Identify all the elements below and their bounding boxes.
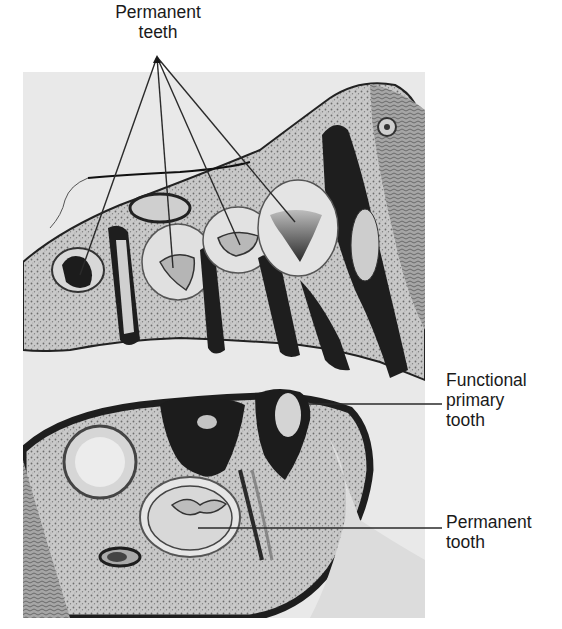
label-permanent-tooth-line1: Permanent: [446, 512, 532, 532]
label-functional-line1: Functional: [446, 370, 527, 390]
label-permanent-tooth: Permanent tooth: [446, 512, 532, 552]
label-permanent-teeth-line1: Permanent: [108, 2, 208, 22]
label-permanent-tooth-line2: tooth: [446, 532, 532, 552]
histology-figure: Permanent teeth Functional primary tooth…: [0, 0, 562, 629]
label-functional-line2: primary: [446, 390, 527, 410]
label-permanent-teeth-line2: teeth: [108, 22, 208, 42]
arrowhead-icon: [153, 55, 161, 63]
label-functional-line3: tooth: [446, 410, 527, 430]
label-functional-primary-tooth: Functional primary tooth: [446, 370, 527, 430]
tooth-micrograph: [23, 72, 425, 618]
label-permanent-teeth: Permanent teeth: [108, 2, 208, 42]
